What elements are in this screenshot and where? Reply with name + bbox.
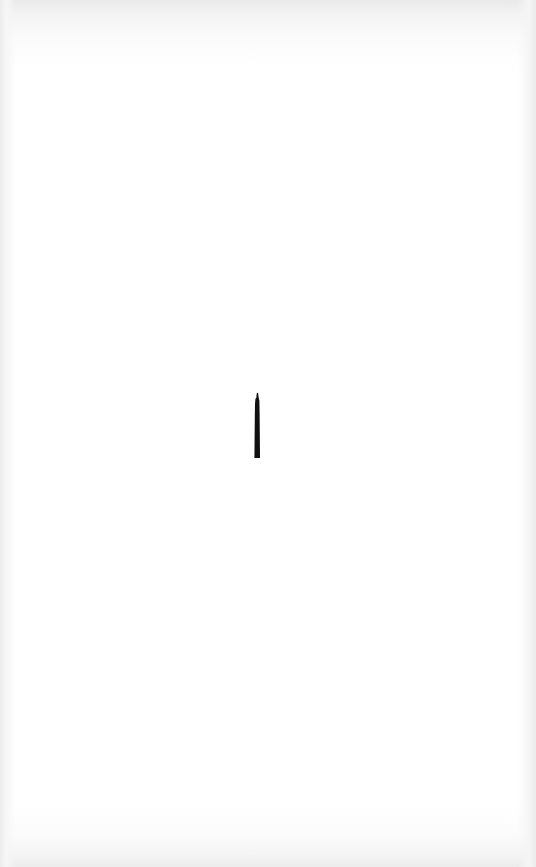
handwritten-mark-text: 1 [253,459,254,460]
handwritten-mark: 1 [253,392,261,459]
handwritten-stroke-icon [253,392,261,459]
scan-shadow-right [0,0,536,867]
scanned-page: 1 [0,0,536,867]
scan-shadow-top [0,0,536,867]
scan-shadow-bottom [0,0,536,867]
scan-shadow-left [0,0,536,867]
